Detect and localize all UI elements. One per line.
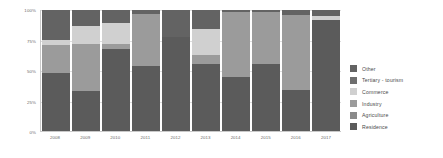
bar-segment[interactable] — [192, 55, 220, 65]
bar-segment[interactable] — [162, 10, 190, 37]
x-axis-tick-label: 2009 — [71, 133, 99, 147]
plot-area — [40, 10, 341, 132]
plot-wrapper: 0%25%50%75%100% 200820092010201120122013… — [0, 0, 345, 158]
x-axis-tick-label: 2013 — [191, 133, 219, 147]
bar-segment[interactable] — [72, 44, 100, 91]
legend-swatch — [350, 77, 357, 84]
legend-item[interactable]: Industry — [350, 98, 442, 110]
legend-item[interactable]: Residence — [350, 121, 442, 133]
bar-column[interactable] — [252, 10, 280, 131]
x-axis-tick-label: 2014 — [221, 133, 249, 147]
bar-segment[interactable] — [162, 37, 190, 131]
legend-label: Industry — [362, 101, 382, 107]
bar-segment[interactable] — [132, 66, 160, 131]
bar-segment[interactable] — [192, 10, 220, 29]
bar-column[interactable] — [132, 10, 160, 131]
bar-segment[interactable] — [192, 64, 220, 131]
legend-label: Agriculture — [362, 112, 388, 118]
legend-swatch — [350, 112, 357, 119]
x-axis-tick-label: 2010 — [101, 133, 129, 147]
bar-column[interactable] — [282, 10, 310, 131]
y-axis-tick-label: 25% — [27, 99, 36, 104]
bar-segment[interactable] — [312, 20, 340, 131]
bar-segment[interactable] — [282, 90, 310, 131]
bar-column[interactable] — [222, 10, 250, 131]
bar-segment[interactable] — [42, 73, 70, 131]
bar-column[interactable] — [312, 10, 340, 131]
bar-segment[interactable] — [132, 14, 160, 66]
bar-stack — [282, 10, 310, 131]
bar-segment[interactable] — [42, 45, 70, 73]
bar-column[interactable] — [192, 10, 220, 131]
legend-item[interactable]: Agriculture — [350, 109, 442, 121]
bar-stack — [102, 10, 130, 131]
x-axis-tick-label: 2011 — [131, 133, 159, 147]
x-axis: 2008200920102011201220132014201520162017 — [40, 133, 341, 147]
bar-stack — [222, 10, 250, 131]
bar-stack — [72, 10, 100, 131]
x-axis-tick-label: 2012 — [161, 133, 189, 147]
bar-segment[interactable] — [252, 64, 280, 131]
legend-swatch — [350, 123, 357, 130]
bar-segment[interactable] — [42, 10, 70, 40]
legend-item[interactable]: Other — [350, 63, 442, 75]
bar-stack — [162, 10, 190, 131]
legend-label: Tertiary - tourism — [362, 77, 403, 83]
bar-segment[interactable] — [282, 15, 310, 90]
x-axis-tick-label: 2017 — [312, 133, 340, 147]
bar-column[interactable] — [102, 10, 130, 131]
x-axis-tick-label: 2016 — [282, 133, 310, 147]
legend-label: Other — [362, 66, 376, 72]
bar-group — [41, 10, 341, 131]
bar-segment[interactable] — [72, 10, 100, 26]
y-axis-tick-label: 0% — [29, 130, 36, 135]
chart-legend: OtherTertiary - tourismCommerceIndustryA… — [350, 63, 442, 133]
x-axis-tick-label: 2015 — [252, 133, 280, 147]
bar-column[interactable] — [42, 10, 70, 131]
legend-item[interactable]: Tertiary - tourism — [350, 75, 442, 87]
bar-stack — [42, 10, 70, 131]
legend-item[interactable]: Commerce — [350, 86, 442, 98]
legend-label: Commerce — [362, 89, 389, 95]
bar-segment[interactable] — [102, 49, 130, 131]
legend-swatch — [350, 88, 357, 95]
bar-segment[interactable] — [222, 12, 250, 76]
y-axis-tick-label: 100% — [24, 8, 36, 13]
bar-segment[interactable] — [102, 10, 130, 23]
bar-segment[interactable] — [72, 91, 100, 131]
bar-stack — [132, 10, 160, 131]
bar-segment[interactable] — [72, 26, 100, 44]
bar-stack — [192, 10, 220, 131]
bar-stack — [252, 10, 280, 131]
legend-label: Residence — [362, 124, 388, 130]
legend-swatch — [350, 65, 357, 72]
y-axis: 0%25%50%75%100% — [0, 0, 40, 158]
bar-segment[interactable] — [222, 77, 250, 131]
bar-segment[interactable] — [192, 29, 220, 54]
bar-segment[interactable] — [252, 12, 280, 64]
bar-column[interactable] — [72, 10, 100, 131]
bar-segment[interactable] — [102, 23, 130, 44]
y-axis-tick-label: 75% — [27, 38, 36, 43]
bar-stack — [312, 10, 340, 131]
x-axis-tick-label: 2008 — [41, 133, 69, 147]
stacked-bar-chart: 0%25%50%75%100% 200820092010201120122013… — [0, 0, 443, 158]
legend-swatch — [350, 100, 357, 107]
bar-column[interactable] — [162, 10, 190, 131]
y-axis-tick-label: 50% — [27, 69, 36, 74]
